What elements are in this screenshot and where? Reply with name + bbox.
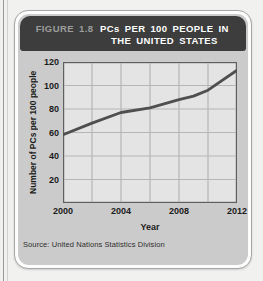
page: FIGURE 1.8 PCs PER 100 PEOPLE IN THE UNI… <box>0 0 263 281</box>
figure-card-body: FIGURE 1.8 PCs PER 100 PEOPLE IN THE UNI… <box>18 14 248 265</box>
y-tick-labels: 20406080100120 <box>38 62 59 203</box>
line-chart <box>63 62 237 203</box>
y-tick-label: 80 <box>38 104 59 114</box>
y-tick-label: 20 <box>38 175 59 185</box>
plot-area <box>63 62 237 203</box>
y-tick-label: 40 <box>38 151 59 161</box>
x-tick-label: 2012 <box>227 206 247 217</box>
x-tick-label: 2000 <box>53 206 73 217</box>
x-axis-title: Year <box>63 222 237 232</box>
figure-card: FIGURE 1.8 PCs PER 100 PEOPLE IN THE UNI… <box>14 10 252 269</box>
source-note: Source: United Nations Statistics Divisi… <box>23 240 165 249</box>
x-tick-label: 2008 <box>169 206 189 217</box>
figure-title: PCs PER 100 PEOPLE IN THE UNITED STATES <box>98 23 230 46</box>
figure-number-label: FIGURE 1.8 <box>36 23 94 35</box>
y-tick-label: 100 <box>38 81 59 91</box>
y-tick-label: 120 <box>38 57 59 67</box>
page-edge-line-inner <box>7 0 8 281</box>
figure-header: FIGURE 1.8 PCs PER 100 PEOPLE IN THE UNI… <box>20 16 246 51</box>
y-tick-label: 60 <box>38 128 59 138</box>
x-tick-label: 2004 <box>111 206 131 217</box>
page-edge-line <box>3 0 4 281</box>
x-tick-labels: 2000200420082012 <box>63 206 237 218</box>
